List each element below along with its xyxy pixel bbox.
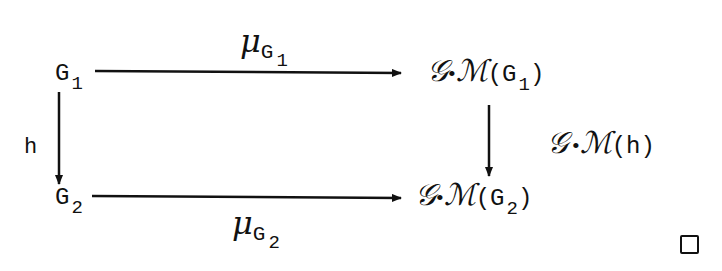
qed-square-icon [680,235,699,254]
node-gm-g1: 𝒢•ℳ(G1) [427,56,544,87]
label-h: h [24,137,37,159]
mu-sub-index: 2 [268,232,279,254]
mu-sub-base: G [261,41,274,64]
functor-arg: (h) [612,133,655,160]
label-gm-h: 𝒢•ℳ(h) [547,128,655,159]
node-base: G [490,185,504,212]
node-gm-g2: 𝒢•ℳ(G2) [415,180,532,211]
functor-m: ℳ [456,53,488,88]
functor-g: 𝒢 [547,125,568,160]
node-g1-base: G [55,60,69,87]
paren-open: ( [476,185,490,212]
paren-close: ) [530,61,544,88]
paren-open: ( [488,61,502,88]
label-mu-g2: μG2 [232,204,280,242]
label-mu-g1: μG1 [240,22,288,60]
node-g2-base: G [55,184,69,211]
functor-m: ℳ [444,177,476,212]
node-g2-sub: 2 [71,197,82,219]
node-base: G [502,61,516,88]
arrow-top [95,71,401,73]
node-g2: G2 [55,186,83,210]
mu-symbol: μ [240,22,261,60]
compose-dot: • [436,185,444,210]
node-g1-sub: 1 [71,73,82,95]
node-sub: 1 [519,74,530,96]
node-g1: G1 [55,62,83,86]
compose-dot: • [448,61,456,86]
arrow-bottom [92,196,401,198]
node-sub: 2 [507,198,518,220]
compose-dot: • [572,133,580,158]
paren-close: ) [518,185,532,212]
mu-symbol: μ [232,204,253,242]
mu-sub-index: 1 [276,50,287,72]
functor-g: 𝒢 [415,177,436,212]
functor-m: ℳ [580,125,612,160]
mu-sub-base: G [253,223,266,246]
functor-g: 𝒢 [427,53,448,88]
